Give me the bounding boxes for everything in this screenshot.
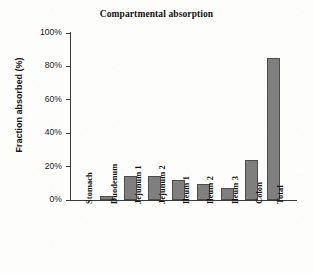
- bar: [267, 58, 280, 200]
- y-tick-label: 20%: [2, 161, 62, 171]
- y-tick-label: 100%: [2, 27, 62, 37]
- x-tick-label: Duodenum: [110, 164, 119, 204]
- y-tick-label: 0%: [2, 194, 62, 204]
- x-tick-label: Ileum 3: [231, 176, 240, 204]
- x-tick-label: Ileum 2: [206, 176, 215, 204]
- y-tick-label: 60%: [2, 94, 62, 104]
- x-tick-label: Jejunum 1: [134, 165, 143, 204]
- x-tick-label: Total: [276, 185, 285, 204]
- chart-title: Compartmental absorption: [0, 9, 313, 19]
- x-tick-label: Ileum 1: [182, 176, 191, 204]
- chart-figure: Compartmental absorption Fraction absorb…: [0, 0, 313, 273]
- x-tick-label: Stomach: [85, 172, 94, 204]
- y-tick-label: 80%: [2, 60, 62, 70]
- x-tick-label: Colon: [255, 182, 264, 204]
- y-tick-label: 40%: [2, 127, 62, 137]
- x-tick-label: Jejunum 2: [158, 165, 167, 204]
- plot-area: [70, 33, 296, 200]
